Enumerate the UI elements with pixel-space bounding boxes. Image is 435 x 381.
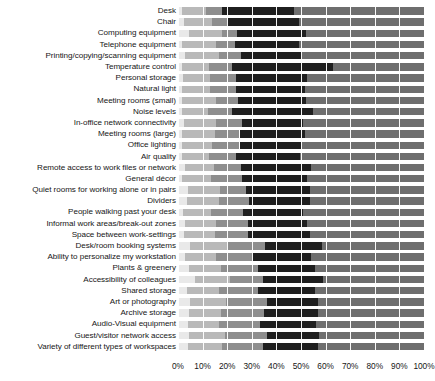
stacked-bar xyxy=(178,231,424,238)
bar-segment xyxy=(311,164,391,171)
bar-segment xyxy=(178,186,188,193)
x-tick-label: 20% xyxy=(219,361,236,371)
bar-segment xyxy=(382,343,424,350)
category-label: Computing equipment xyxy=(0,27,176,38)
bar-segment xyxy=(396,74,424,81)
bar-segment xyxy=(178,276,195,283)
bar-segment xyxy=(315,287,381,294)
bar-segment xyxy=(189,265,221,272)
chart-row: In-office network connectivity xyxy=(0,117,431,129)
category-label: Air quality xyxy=(0,151,176,162)
bar-segment xyxy=(322,242,385,249)
bar-segment xyxy=(211,175,242,182)
category-label: Personal storage xyxy=(0,72,176,83)
chart-row: Informal work areas/break-out zones xyxy=(0,218,431,230)
bar-segment xyxy=(316,321,380,328)
x-tick-label: 10% xyxy=(194,361,211,371)
category-label: Quiet rooms for working alone or in pair… xyxy=(0,184,176,195)
bar-segment xyxy=(216,253,252,260)
bar-segment xyxy=(333,63,387,70)
bar-segment xyxy=(311,253,381,260)
bar-segment xyxy=(188,321,219,328)
bar-segment xyxy=(182,41,216,48)
bar-segment xyxy=(307,175,386,182)
chart-row: Desk xyxy=(0,5,431,17)
bar-segment xyxy=(263,343,318,350)
stacked-bar xyxy=(178,332,424,339)
stacked-bar xyxy=(178,175,424,182)
bar-segment xyxy=(258,287,315,294)
chart-row: Meeting rooms (large) xyxy=(0,128,431,140)
bar-segment xyxy=(178,197,187,204)
stacked-bar xyxy=(178,63,424,70)
stacked-bar xyxy=(178,309,424,316)
stacked-bar xyxy=(178,321,424,328)
bar-segment xyxy=(318,309,381,316)
bar-segment xyxy=(184,231,215,238)
bar-segment xyxy=(178,242,190,249)
category-label: Space between work-settings xyxy=(0,229,176,240)
bar-segment xyxy=(294,7,395,14)
stacked-bar xyxy=(178,164,424,171)
bar-segment xyxy=(318,343,382,350)
bar-segment xyxy=(237,30,306,37)
bar-segment xyxy=(323,276,385,283)
chart-row: Art or photography xyxy=(0,296,431,308)
bar-segment xyxy=(212,18,227,25)
chart-row: Meeting rooms (small) xyxy=(0,95,431,107)
bar-segment xyxy=(236,153,300,160)
bar-segment xyxy=(238,97,306,104)
chart-row: Air quality xyxy=(0,151,431,163)
bar-segment xyxy=(216,119,242,126)
bar-segment xyxy=(236,86,305,93)
bar-segment xyxy=(178,164,185,171)
category-label: In-office network connectivity xyxy=(0,117,176,128)
bar-segment xyxy=(209,63,232,70)
chart-row: Personal storage xyxy=(0,72,431,84)
bar-segment xyxy=(260,321,315,328)
bar-segment xyxy=(182,153,209,160)
bar-segment xyxy=(381,309,424,316)
bar-segment xyxy=(385,242,424,249)
x-tick-label: 100% xyxy=(413,361,434,371)
bar-segment xyxy=(306,30,395,37)
bar-segment xyxy=(392,52,424,59)
x-tick-label: 70% xyxy=(342,361,359,371)
bar-segment xyxy=(382,332,424,339)
bar-segment xyxy=(263,276,323,283)
stacked-bar xyxy=(178,186,424,193)
stacked-bar xyxy=(178,265,424,272)
stacked-bar xyxy=(178,242,424,249)
bar-segment xyxy=(391,164,424,171)
bar-segment xyxy=(221,309,264,316)
bar-segment xyxy=(188,343,222,350)
category-label: Noise levels xyxy=(0,106,176,117)
bar-segment xyxy=(190,242,227,249)
bar-segment xyxy=(189,309,221,316)
bar-segment xyxy=(216,41,234,48)
bar-segment xyxy=(210,74,236,81)
bar-segment xyxy=(387,108,424,115)
bar-segment xyxy=(306,97,382,104)
bar-segment xyxy=(394,7,424,14)
bar-segment xyxy=(264,309,318,316)
category-label: General décor xyxy=(0,173,176,184)
stacked-bar xyxy=(178,343,424,350)
x-tick-label: 90% xyxy=(391,361,408,371)
bar-segment xyxy=(310,197,383,204)
chart-row: Ability to personalize my workstation xyxy=(0,251,431,263)
bar-segment xyxy=(219,197,250,204)
category-label: Printing/copying/scanning equipment xyxy=(0,50,176,61)
bar-segment xyxy=(178,52,185,59)
category-label: Guest/visitor network access xyxy=(0,330,176,341)
bar-segment xyxy=(243,209,303,216)
bar-segment xyxy=(393,86,424,93)
chart-row: Remote access to work files or network xyxy=(0,162,431,174)
bar-segment xyxy=(227,18,298,25)
chart-row: Dividers xyxy=(0,195,431,207)
chart-rows: DeskChairComputing equipmentTelephone eq… xyxy=(0,0,431,352)
bar-segment xyxy=(303,119,394,126)
category-label: Archive storage xyxy=(0,307,176,318)
stacked-bar xyxy=(178,74,424,81)
bar-segment xyxy=(230,276,263,283)
